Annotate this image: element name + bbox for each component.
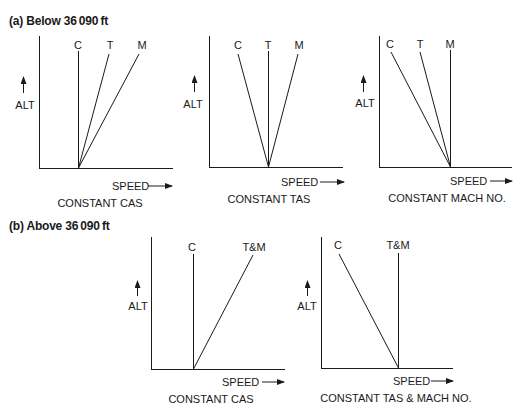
line-label-m: M [445, 38, 454, 50]
y-axis-label: ALT [183, 98, 203, 110]
panel-b1-constant-cas [138, 237, 286, 382]
line-label-c: C [334, 239, 342, 251]
y-axis-label: ALT [15, 99, 35, 111]
line-label-c: C [74, 39, 82, 51]
y-axis-label: ALT [297, 300, 317, 312]
panel-b2-constant-tas-mach [308, 237, 454, 381]
x-axis-label: SPEED [450, 175, 487, 187]
panel-a1-constant-cas [24, 36, 174, 186]
y-axis-label: ALT [128, 300, 148, 312]
line-tm [194, 255, 254, 369]
panel-caption: CONSTANT TAS & MACH NO. [320, 392, 471, 404]
panel-a3-constant-mach [364, 36, 513, 181]
line-c [339, 254, 399, 368]
line-t [79, 54, 110, 168]
line-label-m: M [137, 39, 146, 51]
line-label-t: T [107, 39, 114, 51]
line-t [420, 52, 451, 167]
line-label-m: M [294, 39, 303, 51]
line-label-c: C [188, 241, 196, 253]
panel-caption: CONSTANT CAS [57, 197, 142, 209]
line-c [391, 52, 451, 167]
line-m [269, 54, 299, 167]
line-label-tm: T&M [386, 239, 409, 251]
line-label-tm: T&M [242, 241, 265, 253]
speed-altitude-diagram: C T M ALT SPEED CONSTANT CAS C T M ALT S… [0, 0, 531, 419]
y-axis-label: ALT [355, 97, 375, 109]
x-axis-label: SPEED [393, 375, 430, 387]
x-axis-label: SPEED [281, 176, 318, 188]
panel-caption: CONSTANT MACH NO. [388, 192, 506, 204]
panel-caption: CONSTANT TAS [228, 193, 311, 205]
line-label-t: T [265, 39, 272, 51]
line-label-c: C [386, 38, 394, 50]
line-c [238, 54, 269, 167]
panel-a2-constant-tas [195, 36, 345, 182]
line-m [79, 54, 140, 168]
panel-caption: CONSTANT CAS [168, 393, 253, 405]
x-axis-label: SPEED [112, 180, 149, 192]
line-label-t: T [417, 38, 424, 50]
line-label-c: C [234, 39, 242, 51]
x-axis-label: SPEED [222, 376, 259, 388]
